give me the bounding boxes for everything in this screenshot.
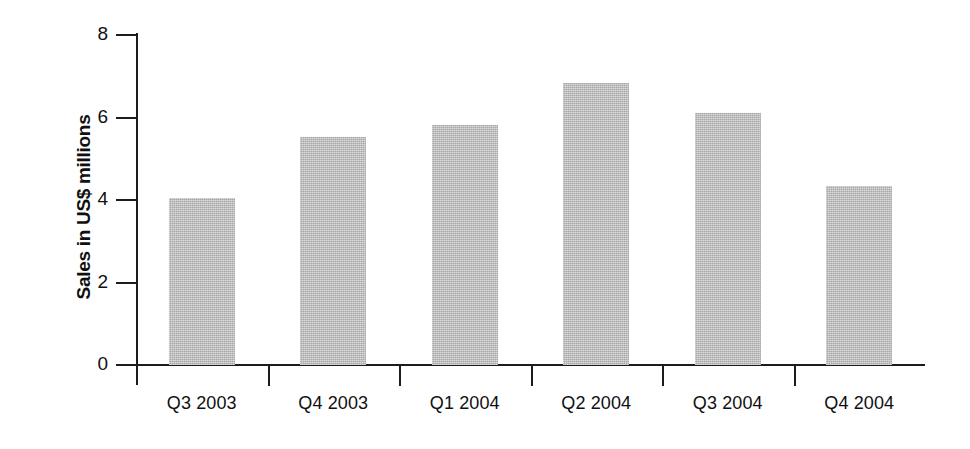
bar	[300, 137, 366, 365]
y-axis-tick-label: 8	[74, 24, 108, 43]
x-axis-category-label: Q3 2004	[662, 392, 793, 414]
bar	[169, 198, 235, 365]
bar	[563, 83, 629, 365]
bar	[432, 125, 498, 365]
y-axis-tick-label: 0	[74, 354, 108, 373]
y-axis-tick	[116, 34, 136, 36]
x-axis-category-label: Q1 2004	[399, 392, 530, 414]
y-axis-tick-label: 4	[74, 189, 108, 208]
y-axis-tick	[116, 199, 136, 201]
y-axis-tick-label: 2	[74, 272, 108, 291]
x-axis-tick	[268, 366, 270, 386]
x-axis-category-label: Q3 2003	[136, 392, 267, 414]
y-axis-tick	[116, 282, 136, 284]
x-axis-category-label: Q4 2004	[794, 392, 925, 414]
x-axis-tick	[531, 366, 533, 386]
x-axis-tick	[794, 366, 796, 386]
bar	[695, 113, 761, 365]
y-axis-tick	[116, 364, 136, 366]
bar-chart: Sales in US$ millions 02468 Q3 2003Q4 20…	[0, 0, 970, 449]
y-axis-tick-label: 6	[74, 107, 108, 126]
y-axis-tick	[116, 117, 136, 119]
bars-layer	[136, 35, 925, 365]
x-axis-category-label: Q4 2003	[268, 392, 399, 414]
x-axis-tick	[662, 366, 664, 386]
x-axis-tick	[399, 366, 401, 386]
bar	[826, 186, 892, 365]
x-axis-category-label: Q2 2004	[531, 392, 662, 414]
